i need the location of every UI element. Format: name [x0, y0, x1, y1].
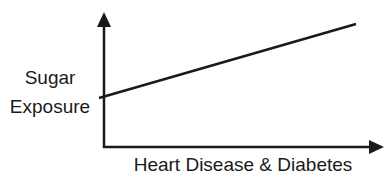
y-axis-arrow-icon: [97, 12, 111, 27]
x-axis-label: Heart Disease & Diabetes: [104, 154, 382, 176]
x-axis-arrow-icon: [369, 140, 384, 154]
y-axis-label-line2: Exposure: [0, 96, 100, 118]
y-axis-label-line1: Sugar: [0, 67, 100, 89]
trend-line: [99, 24, 356, 98]
